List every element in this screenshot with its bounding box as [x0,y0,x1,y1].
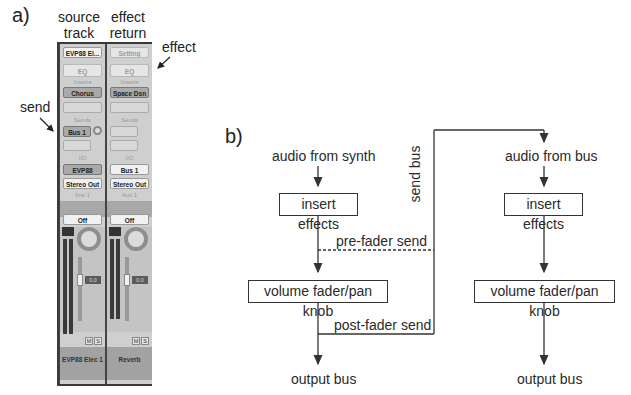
right-volume-fader-pan-box: volume fader/pan knob [474,280,615,303]
pre-fader-send-label: pre-fader send [336,233,427,249]
right-input-label: audio from bus [505,148,598,164]
left-output-label: output bus [291,371,356,387]
right-insert-effects-box: insert effects [504,193,583,216]
left-volume-fader-pan-box: volume fader/pan knob [248,280,388,303]
send-bus-label: send bus [407,144,423,204]
left-input-label: audio from synth [272,148,376,164]
post-fader-send-label: post-fader send [334,317,431,333]
left-insert-effects-box: insert effects [279,193,358,216]
right-output-label: output bus [517,371,582,387]
